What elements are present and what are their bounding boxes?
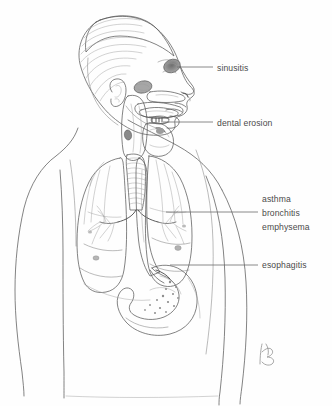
label-esophagitis: esophagitis [262,260,307,270]
label-dental-erosion: dental erosion [217,118,273,128]
label-asthma: asthma [262,194,291,204]
torso-outline [15,120,247,405]
artist-signature [260,344,274,365]
left-lung [145,156,192,287]
ear [110,79,126,107]
anatomical-illustration: sinusitis dental erosion asthma bronchit… [0,0,332,406]
maxillary-sinus [133,79,153,94]
label-bronchitis: bronchitis [262,208,300,218]
label-emphysema: emphysema [262,222,310,232]
nasal-cavity [147,91,185,103]
right-lung [77,158,127,293]
head-profile [79,16,194,136]
label-sinusitis: sinusitis [217,63,248,73]
